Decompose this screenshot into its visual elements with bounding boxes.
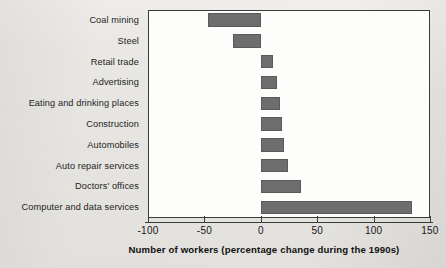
bar-row (148, 31, 430, 52)
category-label: Automobiles (0, 135, 144, 156)
bar[interactable] (233, 34, 261, 47)
category-label: Retail trade (0, 52, 144, 73)
x-axis-tick-label: 150 (421, 225, 438, 236)
bar-row (148, 10, 430, 31)
category-label: Auto repair services (0, 156, 144, 177)
x-axis-tick (204, 216, 205, 223)
x-axis-tick-label: 0 (258, 225, 264, 236)
x-axis-tick-label: -100 (138, 225, 159, 236)
bar-row (148, 156, 430, 177)
bar-chart-figure: Coal mining Steel Retail trade Advertisi… (0, 0, 446, 268)
x-axis-title-text: Number of workers (percentage change dur… (47, 244, 400, 255)
x-axis-tick (148, 216, 149, 223)
bar-row (148, 197, 430, 218)
bar[interactable] (261, 201, 412, 214)
category-label: Computer and data services (0, 197, 144, 218)
category-label: Doctors' offices (0, 176, 144, 197)
bar-row (148, 176, 430, 197)
x-axis-tick (430, 216, 431, 223)
bar-row (148, 114, 430, 135)
bar[interactable] (261, 55, 273, 68)
x-axis-tick (261, 216, 262, 223)
x-axis-tick-label: -50 (197, 225, 212, 236)
bar-row (148, 135, 430, 156)
category-label: Advertising (0, 72, 144, 93)
bar[interactable] (261, 180, 302, 193)
bar-row (148, 52, 430, 73)
category-label: Eating and drinking places (0, 93, 144, 114)
bar-row (148, 72, 430, 93)
bar[interactable] (261, 138, 285, 151)
bar[interactable] (261, 76, 277, 89)
x-axis-tick (317, 216, 318, 223)
x-axis-tick (374, 216, 375, 223)
bar[interactable] (261, 159, 288, 172)
category-label: Coal mining (0, 10, 144, 31)
x-axis-title: Number of workers (percentage change dur… (0, 244, 446, 255)
category-label: Steel (0, 31, 144, 52)
bars-container (148, 10, 430, 218)
category-axis-labels: Coal mining Steel Retail trade Advertisi… (0, 10, 144, 218)
bar[interactable] (261, 97, 280, 110)
x-axis-tick-label: 50 (311, 225, 323, 236)
bar[interactable] (208, 13, 261, 26)
category-label: Construction (0, 114, 144, 135)
x-axis-line (145, 222, 433, 223)
bar[interactable] (261, 117, 282, 130)
x-axis-tick-label: 100 (365, 225, 382, 236)
bar-row (148, 93, 430, 114)
